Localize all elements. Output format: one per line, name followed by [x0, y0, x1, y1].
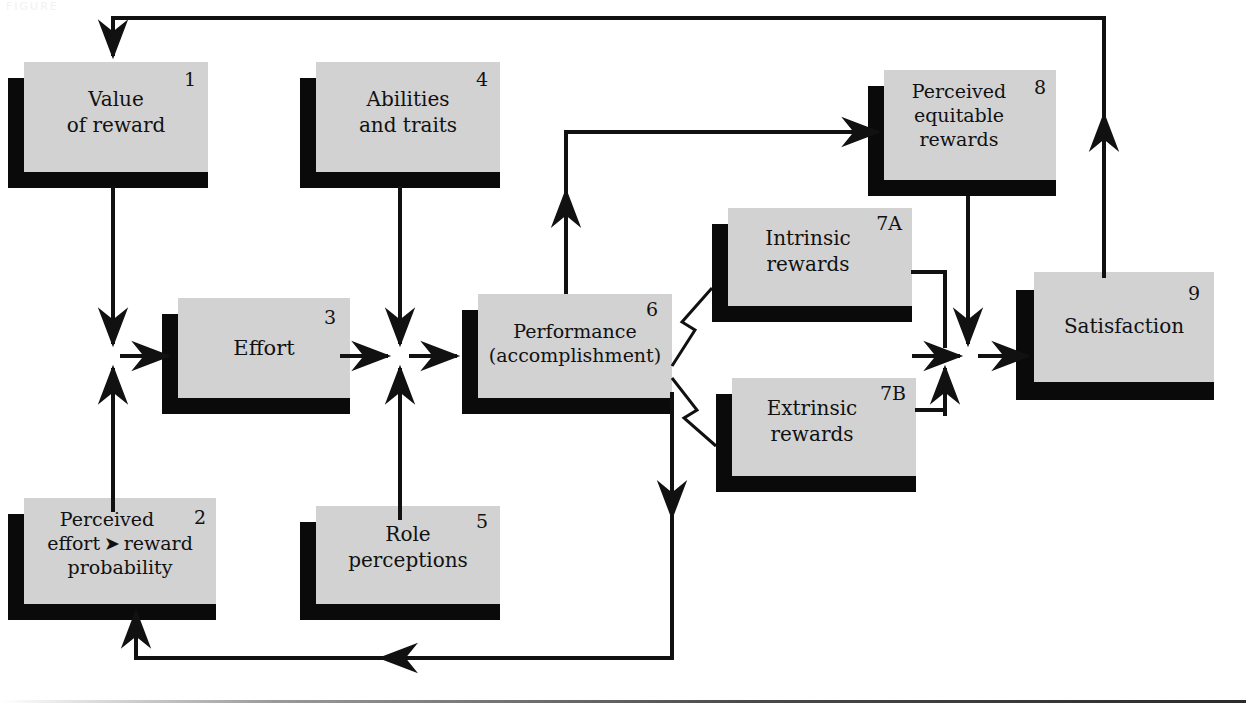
node-performance[interactable]: Performance (accomplishment) 6	[478, 294, 672, 398]
node-label-line2: effort ➤ reward	[24, 532, 216, 555]
node-label: Effort	[178, 336, 350, 362]
node-abilities-and-traits[interactable]: Abilities and traits 4	[316, 62, 500, 172]
figure-caption-fragment: FIGURE	[6, 0, 59, 13]
box-shadow-bottom	[300, 604, 500, 620]
node-label: Abilities	[316, 87, 500, 111]
node-label-line2: rewards	[732, 422, 916, 446]
node-label: Perceived	[24, 508, 216, 531]
node-label: Satisfaction	[1034, 314, 1214, 338]
box-shadow-bottom	[462, 398, 672, 414]
node-number: 6	[646, 298, 658, 320]
node-label-line2: equitable	[884, 104, 1056, 127]
node-perceived-effort-reward-probability[interactable]: Perceived effort ➤ reward probability 2	[24, 498, 216, 604]
footer-divider	[0, 700, 1246, 703]
wire-performance-to-intrinsic	[672, 288, 712, 366]
wire-performance-to-extrinsic	[672, 378, 716, 446]
node-label-line2: perceptions	[316, 548, 500, 572]
node-satisfaction[interactable]: Satisfaction 9	[1034, 272, 1214, 382]
node-role-perceptions[interactable]: Role perceptions 5	[316, 506, 500, 604]
node-number: 1	[184, 68, 196, 90]
node-extrinsic-rewards[interactable]: Extrinsic rewards 7B	[732, 378, 916, 476]
node-label-line2: of reward	[24, 113, 208, 137]
node-number: 3	[324, 306, 336, 328]
box-shadow-bottom	[868, 180, 1056, 196]
node-perceived-equitable-rewards[interactable]: Perceived equitable rewards 8	[884, 70, 1056, 180]
node-label-line3: rewards	[884, 128, 1056, 151]
node-label-line2: (accomplishment)	[478, 344, 672, 367]
box-shadow-bottom	[162, 398, 350, 414]
node-label: Perceived	[884, 80, 1056, 103]
box-shadow-bottom	[716, 476, 916, 492]
node-label-line3: probability	[24, 556, 216, 579]
node-number: 8	[1034, 76, 1046, 98]
box-shadow-bottom	[8, 604, 216, 620]
box-shadow-bottom	[1016, 382, 1214, 400]
node-number: 9	[1188, 282, 1200, 304]
node-value-of-reward[interactable]: Value of reward 1	[24, 62, 208, 172]
node-number: 2	[194, 506, 206, 528]
node-label-line2: rewards	[728, 252, 912, 276]
node-label: Role	[316, 522, 500, 546]
box-shadow-bottom	[300, 172, 500, 188]
node-label: Performance	[478, 320, 672, 343]
node-label-line2: and traits	[316, 113, 500, 137]
node-number: 4	[476, 68, 488, 90]
node-label: Value	[24, 87, 208, 111]
diagram-canvas: FIGURE	[0, 0, 1246, 715]
node-intrinsic-rewards[interactable]: Intrinsic rewards 7A	[728, 208, 912, 306]
node-effort[interactable]: Effort 3	[178, 298, 350, 398]
node-number: 7A	[876, 212, 902, 234]
box-shadow-bottom	[8, 172, 208, 188]
node-number: 5	[476, 510, 488, 532]
box-shadow-bottom	[712, 306, 912, 322]
wire-intrinsic-to-satisfaction	[911, 272, 960, 356]
wire-extrinsic-to-satisfaction	[915, 368, 945, 416]
node-number: 7B	[880, 382, 906, 404]
